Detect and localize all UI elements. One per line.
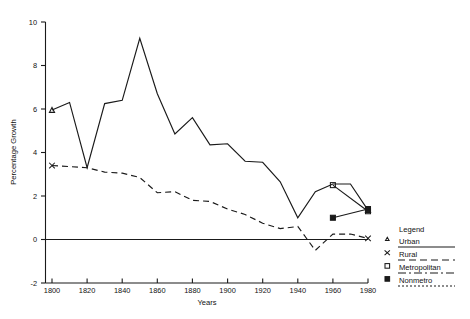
data-point-nonmetro xyxy=(366,207,371,212)
square-filled-icon xyxy=(385,277,390,282)
x-axis-title: Years xyxy=(197,298,216,307)
legend-title: Legend xyxy=(399,225,424,234)
y-tick-label: 6 xyxy=(33,105,37,114)
line-chart-svg: 10 8 6 4 2 0 -2 1800 1820 1840 1860 1880 xyxy=(0,0,470,319)
legend-label-urban: Urban xyxy=(399,237,420,246)
y-tick-label: 2 xyxy=(33,192,37,201)
y-tick-label: 8 xyxy=(33,61,37,70)
x-tick-label: 1940 xyxy=(290,286,306,295)
x-tick-label: 1980 xyxy=(360,286,376,295)
chart-figure: 10 8 6 4 2 0 -2 1800 1820 1840 1860 1880 xyxy=(0,0,470,319)
x-tick-label: 1820 xyxy=(79,286,95,295)
x-tick-label: 1800 xyxy=(44,286,60,295)
legend-label-rural: Rural xyxy=(399,250,417,259)
x-tick-label: 1900 xyxy=(219,286,235,295)
x-tick-label: 1920 xyxy=(254,286,270,295)
x-tick-label: 1960 xyxy=(325,286,341,295)
legend-label-nonmetro: Nonmetro xyxy=(399,276,432,285)
y-tick-label: 0 xyxy=(33,235,37,244)
y-tick-label: 4 xyxy=(33,148,37,157)
legend-label-metropolitan: Metropolitan xyxy=(399,263,441,272)
x-tick-label: 1860 xyxy=(149,286,165,295)
y-axis-title: Percentage Growth xyxy=(9,119,18,184)
data-point-nonmetro xyxy=(330,215,335,220)
y-tick-label: -2 xyxy=(30,279,37,288)
x-tick-label: 1880 xyxy=(184,286,200,295)
y-tick-label: 10 xyxy=(29,18,37,27)
x-tick-label: 1840 xyxy=(114,286,130,295)
